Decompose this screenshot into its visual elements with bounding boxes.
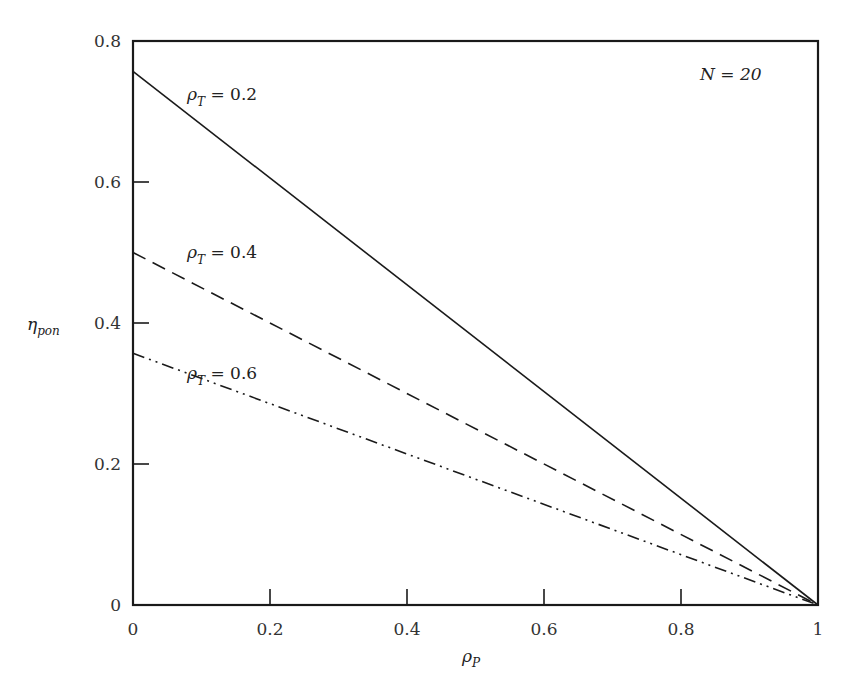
x-tick-label: 1 <box>813 619 824 639</box>
series-line-3 <box>133 353 818 605</box>
y-tick-label: 0.6 <box>94 172 121 192</box>
y-tick-label: 0 <box>110 595 121 615</box>
series-line-1 <box>133 71 818 605</box>
x-axis-ticks: 00.20.40.60.81 <box>128 589 824 639</box>
plot-frame <box>133 41 818 605</box>
x-tick-label: 0.6 <box>530 619 557 639</box>
y-tick-label: 0.4 <box>94 313 121 333</box>
line-chart: 00.20.40.60.81 00.20.40.60.8 ρT = 0.2ρT … <box>0 0 858 690</box>
series-label-3: ρT = 0.6 <box>186 363 257 388</box>
series-label-2: ρT = 0.4 <box>186 242 257 267</box>
x-tick-label: 0.2 <box>256 619 283 639</box>
x-tick-label: 0.4 <box>393 619 420 639</box>
series-label-1: ρT = 0.2 <box>186 84 257 109</box>
x-tick-label: 0 <box>128 619 139 639</box>
n-annotation: N = 20 <box>699 64 762 84</box>
plot-area <box>133 41 818 605</box>
y-tick-label: 0.8 <box>94 31 121 51</box>
y-axis-ticks: 00.20.40.60.8 <box>94 31 149 615</box>
series-line-2 <box>133 253 818 606</box>
y-axis-label: ηpon <box>27 314 60 338</box>
y-tick-label: 0.2 <box>94 454 121 474</box>
x-axis-label: ρP <box>461 646 481 670</box>
data-series <box>133 71 818 605</box>
x-tick-label: 0.8 <box>667 619 694 639</box>
series-labels: ρT = 0.2ρT = 0.4ρT = 0.6 <box>186 84 257 388</box>
